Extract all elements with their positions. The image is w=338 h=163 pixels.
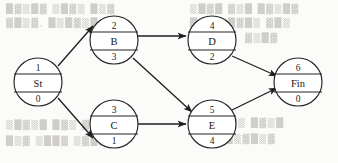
node-fin[interactable]: 6 Fin 0 bbox=[274, 58, 322, 106]
node-st[interactable]: 1 St 0 bbox=[14, 58, 62, 106]
node-c-duration: 1 bbox=[112, 136, 117, 146]
node-fin-label: Fin bbox=[291, 78, 306, 89]
node-d[interactable]: 4 D 2 bbox=[188, 16, 236, 64]
node-b-label: B bbox=[110, 36, 117, 47]
node-c-label: C bbox=[110, 120, 117, 131]
node-d-number: 4 bbox=[210, 21, 215, 31]
node-c-number: 3 bbox=[112, 105, 117, 115]
node-b-number: 2 bbox=[112, 21, 117, 31]
edge-st-to-c bbox=[58, 98, 93, 138]
node-fin-duration: 0 bbox=[296, 94, 301, 104]
edge-d-to-fin bbox=[232, 56, 277, 76]
node-b-duration: 3 bbox=[112, 52, 117, 62]
node-e-label: E bbox=[209, 120, 215, 131]
node-b[interactable]: 2 B 3 bbox=[90, 16, 138, 64]
node-e-duration: 4 bbox=[210, 136, 215, 146]
node-e[interactable]: 5 E 4 bbox=[188, 100, 236, 148]
node-c[interactable]: 3 C 1 bbox=[90, 100, 138, 148]
edge-st-to-b bbox=[58, 26, 93, 66]
node-e-number: 5 bbox=[210, 105, 215, 115]
node-st-duration: 0 bbox=[36, 94, 41, 104]
edge-b-to-e bbox=[133, 58, 192, 112]
network-diagram-canvas: 1 St 0 2 B 3 3 C 1 bbox=[0, 0, 338, 163]
node-st-label: St bbox=[34, 78, 43, 89]
node-d-label: D bbox=[208, 36, 216, 47]
edge-e-to-fin bbox=[232, 88, 277, 110]
node-fin-number: 6 bbox=[296, 63, 301, 73]
scanned-diagram-page: █▓▒█▓ ▒█▓▒ █▒▓ ▓█▒▓, █▒█▓▒█ ▒▓ ▒█▓█ ▓▒█ … bbox=[0, 0, 338, 163]
node-st-number: 1 bbox=[36, 63, 41, 73]
node-d-duration: 2 bbox=[210, 52, 215, 62]
